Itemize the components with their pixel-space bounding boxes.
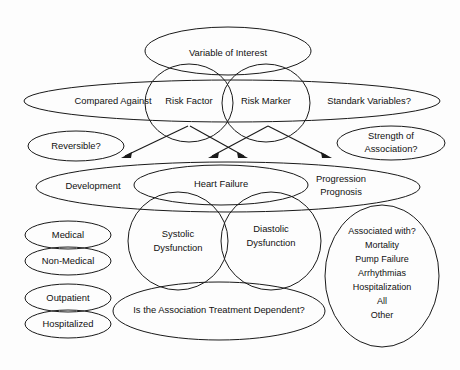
diagram-canvas: Variable of Interest Compared Against St… — [0, 0, 460, 370]
associated-with-item-4: All — [377, 296, 387, 306]
systolic-dysfunction-line2: Dysfunction — [154, 242, 203, 253]
compared-against-label: Compared Against — [74, 95, 152, 106]
associated-with-item-2: Arrhythmias — [358, 268, 407, 278]
variable-of-interest-label: Variable of Interest — [189, 47, 267, 58]
risk-marker-label: Risk Marker — [241, 95, 291, 106]
reversible-label: Reversible? — [51, 140, 101, 151]
node-outpatient[interactable]: Outpatient — [25, 284, 111, 312]
node-reversible[interactable]: Reversible? — [28, 131, 124, 161]
node-associated-with[interactable]: Associated with? Mortality Pump Failure … — [325, 205, 439, 347]
associated-with-item-1: Pump Failure — [355, 254, 409, 264]
associated-with-heading: Associated with? — [348, 226, 416, 236]
node-compared-against-band[interactable]: Compared Against Standark Variables? — [24, 80, 440, 122]
outpatient-label: Outpatient — [46, 292, 90, 303]
associated-with-item-5: Other — [371, 310, 394, 320]
node-diastolic-dysfunction[interactable]: Diastolic Dysfunction — [221, 192, 321, 290]
heart-failure-label: Heart Failure — [194, 178, 248, 189]
strength-of-association-line2: Association? — [364, 143, 417, 154]
node-heart-failure[interactable]: Heart Failure — [134, 165, 308, 205]
development-label: Development — [65, 180, 121, 191]
non-medical-label: Non-Medical — [42, 255, 95, 266]
diastolic-dysfunction-line2: Dysfunction — [247, 237, 296, 248]
diastolic-dysfunction-line1: Diastolic — [253, 223, 289, 234]
node-systolic-dysfunction[interactable]: Systolic Dysfunction — [128, 192, 228, 290]
prognosis-label: Prognosis — [320, 186, 362, 197]
standark-variables-label: Standark Variables? — [327, 95, 411, 106]
node-treatment-dependent[interactable]: Is the Association Treatment Dependent? — [113, 282, 325, 340]
associated-with-item-3: Hospitalization — [353, 282, 412, 292]
associated-with-item-0: Mortality — [365, 240, 400, 250]
node-risk-marker[interactable]: Risk Marker — [222, 64, 310, 142]
node-hospitalized[interactable]: Hospitalized — [25, 310, 111, 338]
arrow-risk-marker-to-progression — [268, 126, 332, 158]
medical-label: Medical — [52, 229, 84, 240]
diagram-root: Variable of Interest Compared Against St… — [0, 0, 460, 370]
node-strength-of-association[interactable]: Strength of Association? — [337, 126, 445, 160]
hospitalized-label: Hospitalized — [42, 318, 93, 329]
systolic-dysfunction-line1: Systolic — [162, 228, 195, 239]
risk-factor-label: Risk Factor — [165, 95, 212, 106]
arrow-risk-factor-to-development — [121, 126, 188, 158]
node-risk-factor[interactable]: Risk Factor — [145, 64, 233, 142]
strength-of-association-line1: Strength of — [368, 130, 414, 141]
node-medical[interactable]: Medical — [25, 221, 111, 249]
systolic-dysfunction-circle — [128, 192, 228, 290]
arrow-risk-marker-to-heart-failure — [190, 126, 248, 158]
treatment-dependent-label: Is the Association Treatment Dependent? — [133, 304, 304, 315]
arrow-head-progression — [321, 152, 332, 158]
progression-label: Progression — [316, 173, 366, 184]
node-non-medical[interactable]: Non-Medical — [25, 247, 111, 275]
